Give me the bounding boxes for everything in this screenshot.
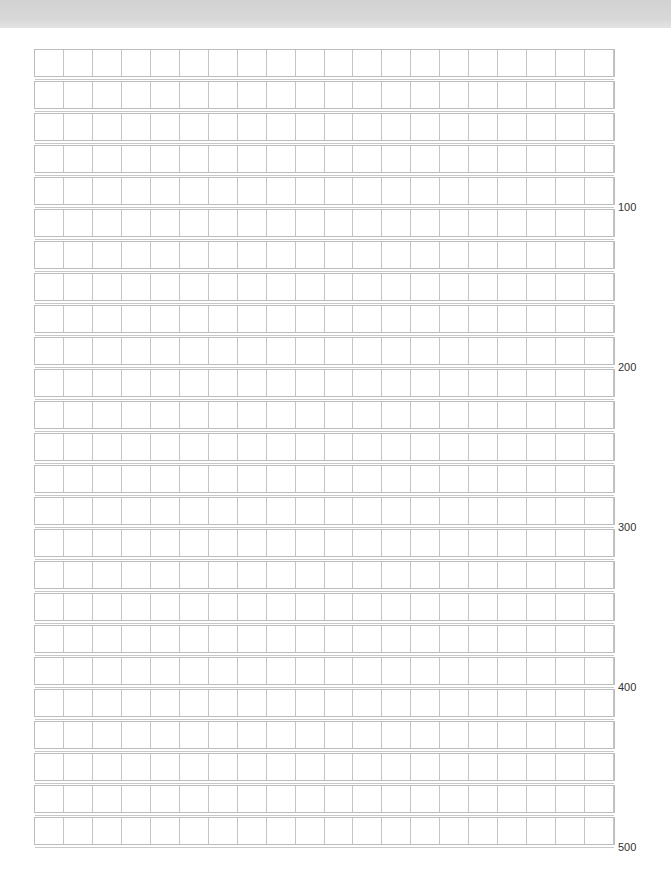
grid-cell[interactable] xyxy=(238,242,267,268)
grid-cell[interactable] xyxy=(585,306,614,332)
grid-cell[interactable] xyxy=(35,434,64,460)
grid-cell[interactable] xyxy=(325,530,354,556)
grid-cell[interactable] xyxy=(527,402,556,428)
grid-cell[interactable] xyxy=(411,530,440,556)
grid-cell[interactable] xyxy=(585,370,614,396)
grid-cell[interactable] xyxy=(585,178,614,204)
grid-cell[interactable] xyxy=(469,338,498,364)
grid-cell[interactable] xyxy=(209,466,238,492)
grid-cell[interactable] xyxy=(527,114,556,140)
grid-cell[interactable] xyxy=(209,274,238,300)
grid-cell[interactable] xyxy=(35,402,64,428)
grid-cell[interactable] xyxy=(64,210,93,236)
grid-cell[interactable] xyxy=(353,466,382,492)
grid-cell[interactable] xyxy=(122,786,151,812)
grid-cell[interactable] xyxy=(469,402,498,428)
grid-cell[interactable] xyxy=(556,210,585,236)
grid-cell[interactable] xyxy=(238,114,267,140)
grid-cell[interactable] xyxy=(527,178,556,204)
grid-cell[interactable] xyxy=(527,306,556,332)
grid-cell[interactable] xyxy=(151,402,180,428)
grid-cell[interactable] xyxy=(267,114,296,140)
grid-cell[interactable] xyxy=(440,818,469,844)
grid-cell[interactable] xyxy=(209,722,238,748)
grid-cell[interactable] xyxy=(180,498,209,524)
grid-cell[interactable] xyxy=(556,786,585,812)
grid-cell[interactable] xyxy=(122,658,151,684)
grid-cell[interactable] xyxy=(151,50,180,76)
grid-cell[interactable] xyxy=(498,338,527,364)
grid-cell[interactable] xyxy=(325,562,354,588)
grid-cell[interactable] xyxy=(527,818,556,844)
grid-cell[interactable] xyxy=(35,530,64,556)
grid-cell[interactable] xyxy=(64,178,93,204)
grid-cell[interactable] xyxy=(411,50,440,76)
grid-cell[interactable] xyxy=(151,754,180,780)
grid-cell[interactable] xyxy=(35,274,64,300)
grid-cell[interactable] xyxy=(411,626,440,652)
grid-cell[interactable] xyxy=(180,402,209,428)
grid-cell[interactable] xyxy=(440,530,469,556)
grid-cell[interactable] xyxy=(498,818,527,844)
grid-cell[interactable] xyxy=(180,658,209,684)
grid-cell[interactable] xyxy=(151,498,180,524)
grid-cell[interactable] xyxy=(585,690,614,716)
grid-cell[interactable] xyxy=(209,114,238,140)
grid-cell[interactable] xyxy=(585,498,614,524)
grid-cell[interactable] xyxy=(180,690,209,716)
grid-cell[interactable] xyxy=(440,562,469,588)
grid-cell[interactable] xyxy=(440,434,469,460)
grid-cell[interactable] xyxy=(93,146,122,172)
grid-cell[interactable] xyxy=(209,338,238,364)
grid-cell[interactable] xyxy=(35,498,64,524)
grid-cell[interactable] xyxy=(35,690,64,716)
grid-cell[interactable] xyxy=(93,338,122,364)
grid-cell[interactable] xyxy=(93,754,122,780)
grid-cell[interactable] xyxy=(556,338,585,364)
grid-cell[interactable] xyxy=(325,370,354,396)
grid-cell[interactable] xyxy=(64,402,93,428)
grid-cell[interactable] xyxy=(151,82,180,108)
grid-cell[interactable] xyxy=(527,722,556,748)
grid-cell[interactable] xyxy=(382,50,411,76)
grid-cell[interactable] xyxy=(267,434,296,460)
grid-cell[interactable] xyxy=(469,754,498,780)
grid-cell[interactable] xyxy=(267,530,296,556)
grid-cell[interactable] xyxy=(93,466,122,492)
grid-cell[interactable] xyxy=(556,82,585,108)
grid-cell[interactable] xyxy=(353,690,382,716)
grid-cell[interactable] xyxy=(527,626,556,652)
grid-cell[interactable] xyxy=(469,146,498,172)
grid-cell[interactable] xyxy=(325,274,354,300)
grid-cell[interactable] xyxy=(556,498,585,524)
grid-cell[interactable] xyxy=(527,690,556,716)
grid-cell[interactable] xyxy=(382,402,411,428)
grid-cell[interactable] xyxy=(296,722,325,748)
grid-cell[interactable] xyxy=(35,82,64,108)
grid-cell[interactable] xyxy=(527,242,556,268)
grid-cell[interactable] xyxy=(411,82,440,108)
grid-cell[interactable] xyxy=(527,562,556,588)
grid-cell[interactable] xyxy=(296,754,325,780)
grid-cell[interactable] xyxy=(469,306,498,332)
grid-cell[interactable] xyxy=(151,786,180,812)
grid-cell[interactable] xyxy=(122,178,151,204)
grid-cell[interactable] xyxy=(411,786,440,812)
grid-cell[interactable] xyxy=(440,370,469,396)
grid-cell[interactable] xyxy=(498,722,527,748)
grid-cell[interactable] xyxy=(267,82,296,108)
grid-cell[interactable] xyxy=(498,402,527,428)
grid-cell[interactable] xyxy=(527,274,556,300)
grid-cell[interactable] xyxy=(498,530,527,556)
grid-cell[interactable] xyxy=(122,402,151,428)
grid-cell[interactable] xyxy=(585,818,614,844)
grid-cell[interactable] xyxy=(93,114,122,140)
grid-cell[interactable] xyxy=(411,594,440,620)
grid-cell[interactable] xyxy=(498,754,527,780)
grid-cell[interactable] xyxy=(411,498,440,524)
grid-cell[interactable] xyxy=(238,210,267,236)
grid-cell[interactable] xyxy=(498,626,527,652)
grid-cell[interactable] xyxy=(527,658,556,684)
grid-cell[interactable] xyxy=(180,530,209,556)
grid-cell[interactable] xyxy=(411,754,440,780)
